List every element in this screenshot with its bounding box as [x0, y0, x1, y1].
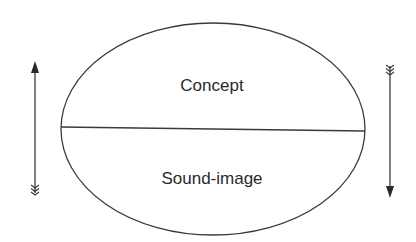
divider-line [61, 127, 365, 131]
concept-label: Concept [180, 76, 244, 95]
sign-diagram: Concept Sound-image [0, 0, 416, 242]
left-up-arrow-icon [31, 61, 39, 195]
sound-image-label: Sound-image [161, 169, 262, 188]
right-down-arrow-icon [386, 65, 394, 198]
